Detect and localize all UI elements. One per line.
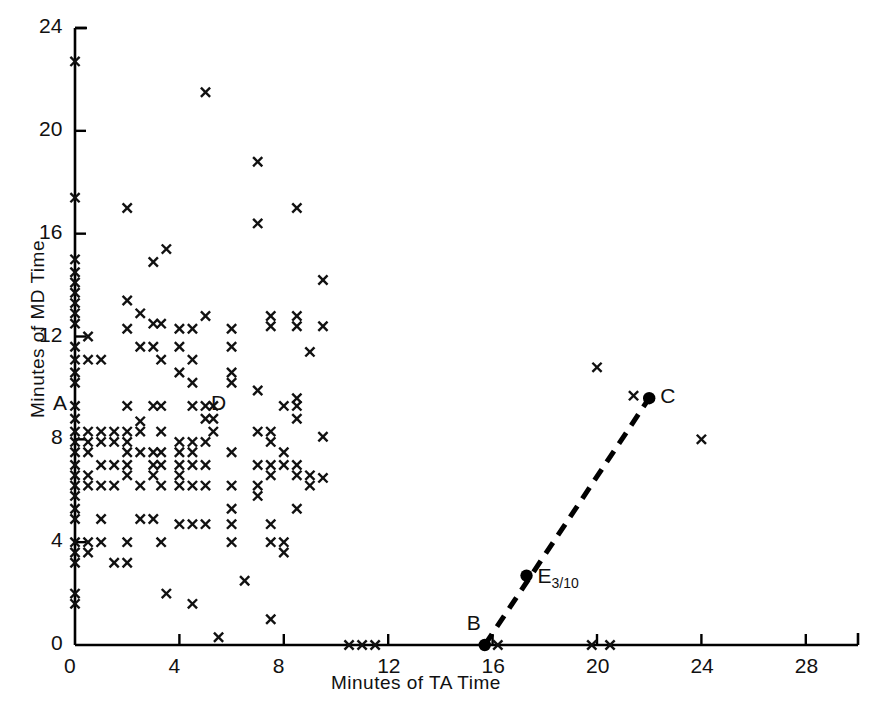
annotated-dots: [479, 392, 656, 651]
dashed-trend-line: [485, 398, 649, 645]
y-tick-label: 20: [39, 117, 62, 141]
x-tick-label: 28: [795, 654, 818, 678]
x-axis-label: Minutes of TA Time: [331, 672, 501, 694]
axes: [75, 28, 858, 645]
y-tick-label: 0: [51, 631, 63, 655]
data-points: [70, 57, 706, 650]
point-label-e: E3/10: [538, 564, 579, 591]
point-label-text: E: [538, 564, 552, 587]
x-tick-label: 8: [273, 654, 285, 678]
plot-canvas: [0, 0, 882, 715]
y-tick-label: 12: [39, 323, 62, 347]
x-tick-label: 16: [482, 654, 505, 678]
scatter-plot-figure: Minutes of MD Time Minutes of TA Time 04…: [0, 0, 882, 715]
y-tick-label: 4: [51, 528, 63, 552]
x-tick-label: 12: [377, 654, 400, 678]
x-tick-label: 4: [168, 654, 180, 678]
point-label-a: A: [53, 391, 67, 415]
x-tick-label: 20: [586, 654, 609, 678]
x-tick-label: 24: [690, 654, 713, 678]
x-tick-label: 0: [64, 654, 76, 678]
y-tick-label: 16: [39, 220, 62, 244]
point-label-d: D: [211, 391, 226, 415]
point-label-b: B: [467, 611, 481, 635]
y-tick-label: 8: [51, 425, 63, 449]
y-tick-label: 24: [39, 14, 62, 38]
point-label-c: C: [660, 384, 675, 408]
point-label-subscript: 3/10: [552, 575, 579, 591]
